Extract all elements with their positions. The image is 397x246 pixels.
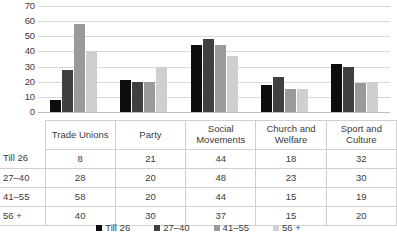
bar: [343, 67, 354, 112]
bar: [261, 85, 272, 112]
bar: [355, 83, 366, 112]
table-row: 41–555820441519: [0, 188, 397, 207]
legend-swatch-icon: [96, 225, 102, 231]
bar-group: [38, 6, 108, 112]
bar: [120, 80, 131, 112]
bar: [227, 56, 238, 112]
bar: [132, 82, 143, 112]
bar: [156, 67, 167, 112]
table-row: Till 26821441832: [0, 150, 397, 169]
legend-item[interactable]: Till 26: [96, 222, 130, 233]
table-cell: 44: [186, 150, 256, 169]
table-row-label: 27–40: [0, 169, 45, 188]
table-cell: 32: [326, 150, 396, 169]
legend-item[interactable]: 41–55: [214, 222, 249, 233]
y-axis-tick-20: 20: [25, 77, 35, 87]
bar: [86, 51, 97, 112]
legend-swatch-icon: [154, 225, 160, 231]
bar: [191, 45, 202, 112]
table-cell: 20: [115, 169, 185, 188]
legend-label: Till 26: [105, 222, 130, 233]
legend-label: 27–40: [163, 222, 189, 233]
bar: [50, 100, 61, 112]
table-cell: 8: [45, 150, 115, 169]
table-cell: 44: [186, 188, 256, 207]
legend-item[interactable]: 27–40: [154, 222, 189, 233]
bar: [74, 24, 85, 112]
y-axis: 706050403020100: [0, 6, 38, 112]
gridline-0: [38, 112, 390, 113]
bar: [144, 82, 155, 112]
table-column-header: Trade Unions: [45, 121, 115, 150]
legend-label: 56 +: [282, 222, 301, 233]
table-cell: 18: [256, 150, 326, 169]
table-column-header: Social Movements: [186, 121, 256, 150]
y-axis-tick-60: 60: [25, 16, 35, 26]
data-table: Trade UnionsPartySocial MovementsChurch …: [0, 120, 397, 226]
table-header-row: Trade UnionsPartySocial MovementsChurch …: [0, 121, 397, 150]
plot-area: [38, 6, 390, 112]
bar-chart: 706050403020100: [0, 6, 397, 122]
table-cell: 21: [115, 150, 185, 169]
data-table-element: Trade UnionsPartySocial MovementsChurch …: [0, 120, 397, 226]
table-head: Trade UnionsPartySocial MovementsChurch …: [0, 121, 397, 150]
bar: [367, 82, 378, 112]
bar: [331, 64, 342, 112]
bar: [273, 77, 284, 112]
table-corner-cell: [0, 121, 45, 150]
bar: [215, 45, 226, 112]
table-row-label: Till 26: [0, 150, 45, 169]
table-cell: 48: [186, 169, 256, 188]
table-cell: 23: [256, 169, 326, 188]
table-row-label: 41–55: [0, 188, 45, 207]
y-axis-tick-50: 50: [25, 32, 35, 42]
y-axis-tick-0: 0: [30, 107, 35, 117]
table-cell: 28: [45, 169, 115, 188]
table-cell: 20: [115, 188, 185, 207]
table-body: Till 2682144183227–40282048233041–555820…: [0, 150, 397, 226]
chart-with-data-table: 706050403020100 Trade UnionsPartySocial …: [0, 0, 397, 246]
table-column-header: Sport and Culture: [326, 121, 396, 150]
legend-swatch-icon: [273, 225, 279, 231]
table-cell: 15: [256, 188, 326, 207]
bar: [297, 89, 308, 112]
chart-legend: Till 2627–4041–5556 +: [0, 222, 397, 233]
y-axis-tick-10: 10: [25, 92, 35, 102]
legend-swatch-icon: [214, 225, 220, 231]
bar-group: [108, 6, 178, 112]
y-axis-tick-40: 40: [25, 47, 35, 57]
bar: [203, 39, 214, 112]
bar-groups: [38, 6, 390, 112]
table-cell: 19: [326, 188, 396, 207]
table-cell: 30: [326, 169, 396, 188]
table-cell: 58: [45, 188, 115, 207]
table-row: 27–402820482330: [0, 169, 397, 188]
legend-label: 41–55: [223, 222, 249, 233]
bar: [62, 70, 73, 112]
bar-group: [179, 6, 249, 112]
table-column-header: Party: [115, 121, 185, 150]
y-axis-tick-70: 70: [25, 1, 35, 11]
legend-item[interactable]: 56 +: [273, 222, 301, 233]
bar: [285, 89, 296, 112]
bar-group: [249, 6, 319, 112]
table-column-header: Church and Welfare: [256, 121, 326, 150]
bar-group: [320, 6, 390, 112]
y-axis-tick-30: 30: [25, 62, 35, 72]
